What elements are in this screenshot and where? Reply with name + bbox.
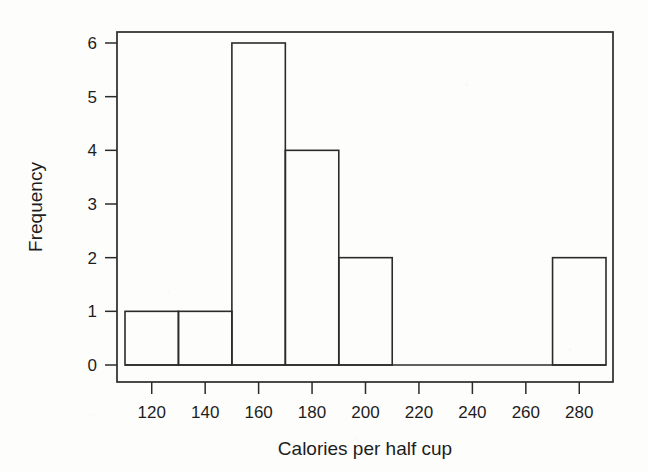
histogram-bar <box>285 150 338 365</box>
x-axis-ticks <box>152 382 580 394</box>
x-tick-label: 180 <box>298 403 326 422</box>
histogram-bar <box>339 258 392 365</box>
x-axis-title: Calories per half cup <box>278 438 452 459</box>
histogram-bar <box>125 311 178 365</box>
y-tick-label: 3 <box>88 195 97 214</box>
x-tick-label: 120 <box>138 403 166 422</box>
histogram-bar <box>553 258 606 365</box>
y-tick-label: 6 <box>88 34 97 53</box>
y-axis-tick-labels: 0123456 <box>88 34 97 375</box>
x-tick-label: 260 <box>512 403 540 422</box>
y-axis-title: Frequency <box>25 162 46 252</box>
histogram-bar <box>178 311 231 365</box>
y-tick-label: 1 <box>88 302 97 321</box>
x-tick-label: 280 <box>565 403 593 422</box>
x-tick-label: 140 <box>191 403 219 422</box>
y-tick-label: 5 <box>88 88 97 107</box>
y-axis-ticks <box>105 43 117 365</box>
x-tick-label: 220 <box>405 403 433 422</box>
histogram-bars <box>125 43 606 365</box>
y-tick-label: 4 <box>88 141 97 160</box>
histogram-screenshot: 120140160180200220240260280 0123456 Calo… <box>0 0 648 472</box>
x-tick-label: 200 <box>351 403 379 422</box>
x-tick-label: 240 <box>458 403 486 422</box>
x-tick-label: 160 <box>244 403 272 422</box>
histogram-bar <box>232 43 285 365</box>
y-tick-label: 0 <box>88 356 97 375</box>
plot-frame <box>117 32 613 382</box>
x-axis-tick-labels: 120140160180200220240260280 <box>138 403 594 422</box>
histogram-chart: 120140160180200220240260280 0123456 Calo… <box>0 0 648 472</box>
y-tick-label: 2 <box>88 249 97 268</box>
